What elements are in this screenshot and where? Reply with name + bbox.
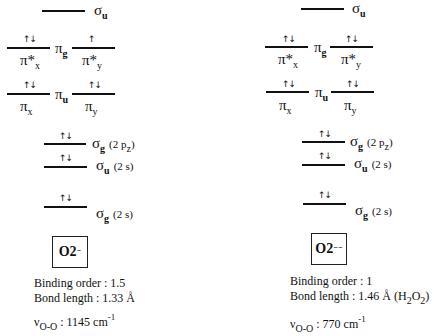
- species-box-peroxide: O2⁻⁻: [311, 233, 347, 265]
- electrons-sigma-u-2s: ↑↓: [59, 154, 72, 163]
- stretch-frequency: νO-O : 1145 cm-1: [34, 310, 135, 334]
- label-sigma-g-2s: σg (2 s): [96, 205, 133, 224]
- electrons-sigma-u-2s: ↑↓: [318, 152, 331, 161]
- level-sigma-g-2s: [44, 206, 87, 208]
- electrons-sigma-g-2s: ↑↓: [59, 194, 72, 203]
- level-sigma-g-2pz: [44, 143, 86, 145]
- level-pi-star-x: [265, 46, 308, 48]
- info-superoxide: Binding order : 1.5 Bond length : 1.33 Å…: [34, 276, 135, 334]
- electrons-pi-star-x: ↑↓: [23, 35, 36, 44]
- label-pi-x: πx: [20, 98, 33, 117]
- label-pi-y: πy: [344, 97, 357, 116]
- label-sigma-u: σu: [94, 2, 108, 21]
- level-sigma-u-antibonding: [42, 10, 85, 12]
- electrons-pi-x: ↑↓: [282, 80, 295, 89]
- label-sigma-g-2pz: σg (2 pz): [350, 133, 393, 152]
- binding-order: Binding order : 1.5: [34, 276, 135, 291]
- binding-order: Binding order : 1: [290, 274, 429, 289]
- label-pi-star-y: π*y: [82, 52, 102, 71]
- label-pi-g: πg: [314, 39, 327, 58]
- electrons-pi-star-y: ↑↓: [345, 35, 358, 44]
- electrons-pi-y: ↑↓: [88, 81, 101, 90]
- info-peroxide: Binding order : 1 Bond length : 1.46 Å (…: [290, 274, 429, 336]
- label-sigma-u: σu: [352, 0, 366, 19]
- electrons-sigma-g-2pz: ↑↓: [318, 130, 331, 139]
- level-pi-star-y: [330, 46, 373, 48]
- stretch-frequency: νO-O : 770 cm-1: [290, 312, 429, 336]
- electrons-pi-y: ↑↓: [346, 80, 359, 89]
- label-pi-star-x: π*x: [278, 51, 298, 70]
- label-pi-u: πu: [55, 86, 68, 105]
- level-sigma-g-2pz: [302, 141, 345, 143]
- level-sigma-u-2s: [44, 166, 87, 168]
- level-sigma-u-antibonding: [301, 8, 344, 10]
- level-pi-y: [72, 93, 115, 95]
- level-sigma-g-2s: [303, 203, 346, 205]
- electrons-pi-star-y: ↑: [88, 35, 95, 44]
- label-pi-y: πy: [85, 98, 98, 117]
- label-sigma-u-2s: σu (2 s): [354, 155, 392, 174]
- level-pi-x: [7, 93, 50, 95]
- label-pi-star-x: π*x: [20, 52, 40, 71]
- label-pi-star-y: π*y: [341, 51, 361, 70]
- bond-length: Bond length : 1.33 Å: [34, 291, 135, 306]
- label-pi-u: πu: [315, 84, 328, 103]
- label-sigma-g-2s: σg (2 s): [355, 202, 392, 221]
- bond-length: Bond length : 1.46 Å (H2O2): [290, 289, 429, 308]
- electrons-sigma-g-2pz: ↑↓: [59, 132, 72, 141]
- level-pi-y: [331, 91, 374, 93]
- level-pi-star-y: [72, 47, 115, 49]
- electrons-pi-x: ↑↓: [23, 81, 36, 90]
- label-sigma-u-2s: σu (2 s): [96, 157, 134, 176]
- label-pi-x: πx: [279, 97, 292, 116]
- level-pi-x: [266, 91, 309, 93]
- level-sigma-u-2s: [302, 164, 345, 166]
- electrons-sigma-g-2s: ↑↓: [318, 191, 331, 200]
- electrons-pi-star-x: ↑↓: [282, 35, 295, 44]
- species-box-superoxide: O2⁻: [52, 236, 88, 268]
- label-sigma-g-2pz: σg (2 pz): [92, 135, 135, 154]
- label-pi-g: πg: [55, 40, 68, 59]
- level-pi-star-x: [7, 47, 50, 49]
